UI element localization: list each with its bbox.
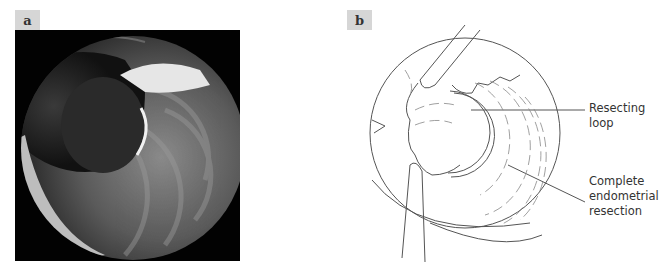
photo-rendering bbox=[15, 30, 240, 261]
field-of-view-circle bbox=[370, 38, 560, 228]
hysteroscopic-photo bbox=[15, 30, 240, 261]
diagram-drawing bbox=[360, 25, 659, 268]
panel-label-a: a bbox=[15, 10, 40, 30]
callout-complete-resection: Complete endometrial resection bbox=[589, 174, 659, 219]
resection-diagram bbox=[360, 25, 659, 268]
callout-resecting-loop: Resecting loop bbox=[589, 101, 645, 131]
leader-resection bbox=[508, 165, 585, 202]
